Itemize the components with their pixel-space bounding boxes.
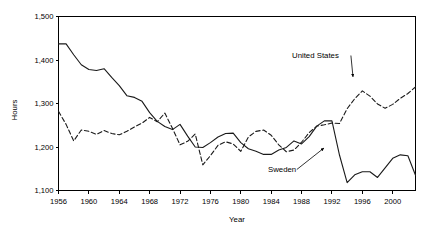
annotation-label-sweden: Sweden: [268, 165, 296, 174]
y-axis-title: Hours: [10, 100, 19, 121]
x-tick-label: 1996: [354, 197, 371, 206]
x-tick-label: 1980: [232, 197, 249, 206]
y-tick-label: 1,500: [34, 12, 53, 21]
x-tick-label: 1956: [50, 197, 67, 206]
plot-frame: [59, 17, 416, 191]
x-axis-title: Year: [229, 215, 245, 224]
x-tick-label: 1972: [172, 197, 189, 206]
x-tick-label: 1992: [323, 197, 340, 206]
chart-figure: 1,1001,2001,3001,4001,500 19561960196419…: [0, 0, 429, 234]
data-series-group: [59, 44, 416, 183]
series-annotations: United StatesSweden: [268, 51, 353, 174]
x-tick-label: 1960: [80, 197, 97, 206]
y-axis-tick-labels: 1,1001,2001,3001,4001,500: [34, 12, 53, 195]
x-tick-label: 1988: [293, 197, 310, 206]
y-tick-label: 1,300: [34, 99, 53, 108]
annotation-label-united-states: United States: [292, 51, 339, 60]
x-tick-label: 1964: [111, 197, 128, 206]
annotation-leader-united-states: [351, 56, 353, 78]
x-axis-tick-labels: 1956196019641968197219761980198419881992…: [50, 197, 401, 206]
y-tick-label: 1,200: [34, 143, 53, 152]
y-tick-label: 1,400: [34, 56, 53, 65]
x-tick-label: 2000: [384, 197, 401, 206]
hours-worked-line-chart: 1,1001,2001,3001,4001,500 19561960196419…: [0, 0, 429, 234]
series-line-united-states: [59, 87, 416, 165]
series-line-sweden: [59, 44, 416, 183]
x-tick-label: 1968: [141, 197, 158, 206]
x-tick-label: 1976: [202, 197, 219, 206]
x-tick-label: 1984: [263, 197, 280, 206]
annotation-leader-sweden: [297, 148, 324, 170]
y-tick-label: 1,100: [34, 186, 53, 195]
